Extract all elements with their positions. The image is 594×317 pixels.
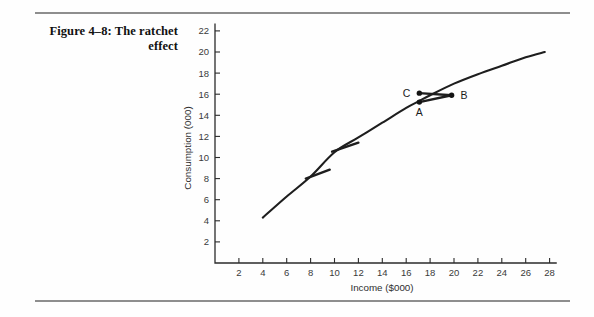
point-label-a: A <box>416 106 423 118</box>
x-tick-label: 22 <box>473 267 484 278</box>
x-tick-label: 18 <box>425 267 436 278</box>
ratchet-segment <box>306 170 330 179</box>
x-tick-label: 4 <box>260 267 265 278</box>
x-tick-label: 2 <box>236 267 241 278</box>
ratchet-link-c-b <box>419 93 451 95</box>
y-tick-label: 14 <box>198 110 209 121</box>
y-tick-label: 4 <box>204 215 209 226</box>
y-tick-label: 6 <box>204 194 209 205</box>
x-tick-label: 28 <box>544 267 555 278</box>
point-marker-a <box>417 99 422 104</box>
y-tick-label: 8 <box>204 173 209 184</box>
figure-page: Figure 4–8: The ratchet effect 246810121… <box>0 0 594 317</box>
x-tick-label: 24 <box>497 267 508 278</box>
consumption-function-curve <box>263 52 545 218</box>
y-axis-ticks: 246810121416182022 <box>198 25 220 247</box>
y-tick-label: 20 <box>198 46 209 57</box>
y-tick-label: 12 <box>198 131 209 142</box>
x-tick-label: 12 <box>353 267 364 278</box>
x-tick-label: 14 <box>377 267 388 278</box>
x-tick-label: 26 <box>520 267 531 278</box>
x-axis-ticks: 246810121416182022242628 <box>236 258 555 278</box>
consumption-curve <box>263 52 545 218</box>
point-label-c: C <box>403 87 411 99</box>
point-marker-c <box>417 90 422 95</box>
chart-plot-area: 246810121416182022242628 246810121416182… <box>0 0 594 317</box>
axis-spine <box>215 24 557 263</box>
x-tick-label: 8 <box>308 267 313 278</box>
point-marker-b <box>449 93 454 98</box>
x-tick-label: 6 <box>284 267 289 278</box>
chart-axes <box>215 24 557 263</box>
y-tick-label: 22 <box>198 25 209 36</box>
y-tick-label: 2 <box>204 236 209 247</box>
point-label-b: B <box>461 89 468 101</box>
y-tick-label: 10 <box>198 152 209 163</box>
y-tick-label: 18 <box>198 68 209 79</box>
ratchet-effect-chart: 246810121416182022242628 246810121416182… <box>0 0 594 317</box>
x-axis-title: Income ($000) <box>350 282 413 293</box>
x-tick-label: 16 <box>401 267 412 278</box>
x-tick-label: 20 <box>449 267 460 278</box>
y-axis-title: Consumption (000) <box>182 106 193 189</box>
y-tick-label: 16 <box>198 89 209 100</box>
x-tick-label: 10 <box>329 267 340 278</box>
